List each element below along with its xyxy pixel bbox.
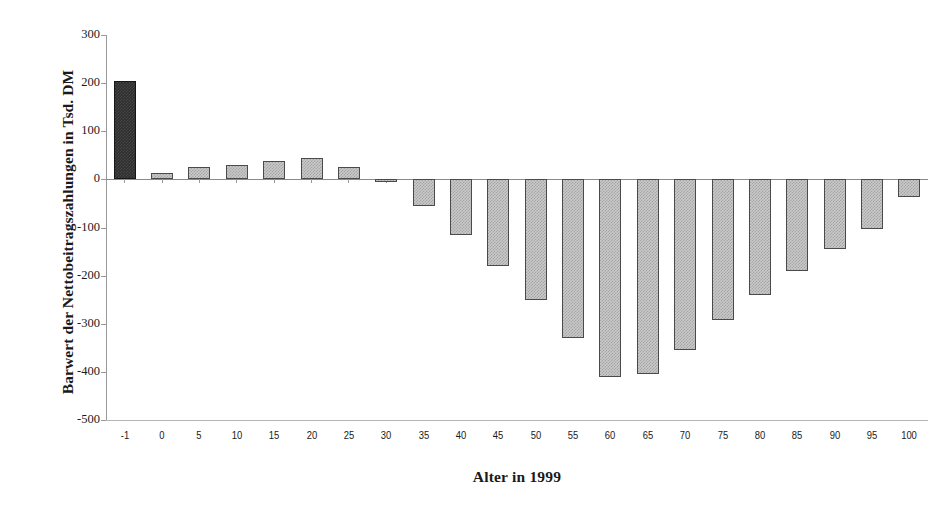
y-axis-tick-label: -200 bbox=[52, 269, 100, 282]
bar bbox=[749, 179, 771, 295]
bar bbox=[712, 179, 734, 320]
y-axis-tick-label: -100 bbox=[52, 221, 100, 234]
bar-chart-figure: Barwert der Nettobeitragszahlungen in Ts… bbox=[0, 0, 944, 518]
x-axis-bottom-line bbox=[106, 420, 928, 421]
y-axis-tick bbox=[101, 420, 106, 421]
x-axis-tick-label: 100 bbox=[893, 430, 926, 442]
bar bbox=[226, 165, 248, 179]
x-axis-tick-label: 70 bbox=[669, 430, 702, 442]
bar bbox=[562, 179, 584, 338]
y-axis-tick-label: 0 bbox=[52, 172, 100, 185]
x-axis-tick-label: 75 bbox=[706, 430, 739, 442]
x-axis-tick-label: 20 bbox=[295, 430, 328, 442]
x-axis-tick-label: 50 bbox=[519, 430, 552, 442]
bar bbox=[263, 161, 285, 179]
x-axis-tick-label: 60 bbox=[594, 430, 627, 442]
y-axis-tick bbox=[101, 83, 106, 84]
y-axis-tick-label: -400 bbox=[52, 365, 100, 378]
x-axis-tick-label: 55 bbox=[557, 430, 590, 442]
x-axis-tick bbox=[311, 179, 312, 183]
bar bbox=[599, 179, 621, 376]
x-axis-tick-label: 85 bbox=[781, 430, 814, 442]
bar bbox=[301, 158, 323, 179]
y-axis-tick-label: -500 bbox=[52, 413, 100, 426]
x-axis-tick-label: 15 bbox=[258, 430, 291, 442]
x-axis-tick bbox=[274, 179, 275, 183]
x-axis-tick-label: 0 bbox=[146, 430, 179, 442]
x-axis-tick-label: 35 bbox=[407, 430, 440, 442]
bar bbox=[375, 179, 397, 182]
x-axis-tick-label: 90 bbox=[818, 430, 851, 442]
bar bbox=[637, 179, 659, 374]
x-axis-tick-label: 25 bbox=[332, 430, 365, 442]
bar bbox=[188, 167, 210, 179]
bar bbox=[413, 179, 435, 206]
y-axis-tick bbox=[101, 228, 106, 229]
bar bbox=[114, 81, 136, 180]
y-axis-tick-label: 300 bbox=[52, 28, 100, 41]
x-axis-tick-label: 5 bbox=[183, 430, 216, 442]
x-axis-tick-label: 80 bbox=[743, 430, 776, 442]
plot-area bbox=[106, 35, 928, 420]
x-axis-tick bbox=[162, 179, 163, 183]
y-axis-tick-label: 200 bbox=[52, 76, 100, 89]
x-axis-tick bbox=[199, 179, 200, 183]
y-axis-tick-label: 100 bbox=[52, 124, 100, 137]
x-axis-tick-label: 40 bbox=[445, 430, 478, 442]
y-axis-line bbox=[106, 35, 107, 420]
x-axis-tick-label: 30 bbox=[370, 430, 403, 442]
bar bbox=[487, 179, 509, 266]
y-axis-tick bbox=[101, 324, 106, 325]
y-axis-tick-label: -300 bbox=[52, 317, 100, 330]
x-axis-tick-label: -1 bbox=[108, 430, 141, 442]
y-axis-tick bbox=[101, 131, 106, 132]
x-axis-tick-label: 65 bbox=[631, 430, 664, 442]
x-axis-tick bbox=[348, 179, 349, 183]
bar bbox=[525, 179, 547, 299]
x-axis-tick bbox=[124, 179, 125, 183]
x-axis-tick-label: 95 bbox=[856, 430, 889, 442]
x-axis-tick bbox=[236, 179, 237, 183]
bar bbox=[338, 167, 360, 179]
bar bbox=[786, 179, 808, 270]
x-axis-tick-label: 10 bbox=[220, 430, 253, 442]
y-axis-tick bbox=[101, 276, 106, 277]
bar bbox=[450, 179, 472, 235]
y-axis-tick bbox=[101, 179, 106, 180]
y-axis-tick bbox=[101, 35, 106, 36]
bar bbox=[824, 179, 846, 249]
bar bbox=[898, 179, 920, 197]
x-axis-tick-label: 45 bbox=[482, 430, 515, 442]
x-axis-title: Alter in 1999 bbox=[106, 468, 928, 486]
y-axis-tick bbox=[101, 372, 106, 373]
bar bbox=[861, 179, 883, 229]
bar bbox=[674, 179, 696, 350]
bar bbox=[151, 173, 173, 180]
